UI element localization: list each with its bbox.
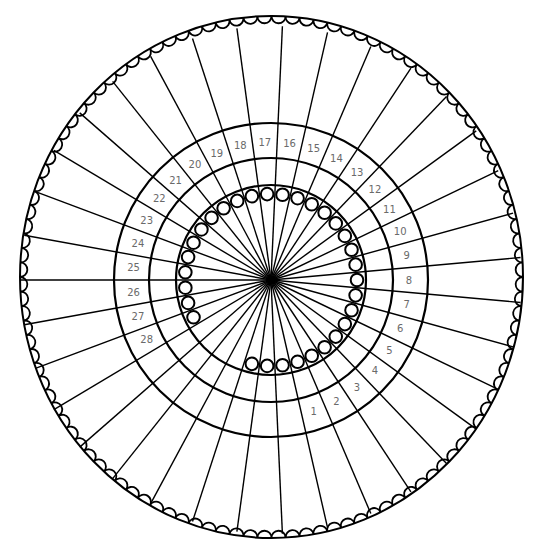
spoke-line <box>237 28 271 280</box>
spoke-line <box>271 280 282 534</box>
scallop <box>84 92 96 104</box>
segment-number: 6 <box>397 323 403 334</box>
scallop <box>115 64 128 75</box>
scallop <box>456 103 468 116</box>
bead-circle <box>261 188 274 201</box>
segment-number: 10 <box>394 226 407 237</box>
segment-number: 28 <box>140 334 153 345</box>
spoke-line <box>271 280 328 528</box>
scallop <box>437 459 449 471</box>
segment-number: 24 <box>132 238 145 249</box>
segment-number: 19 <box>210 148 223 159</box>
bead-circle <box>261 360 274 373</box>
bead-circle <box>246 358 259 371</box>
bead-circle <box>205 212 218 225</box>
bead-circle <box>305 198 318 211</box>
bead-circle <box>231 195 244 208</box>
scallop <box>94 459 106 471</box>
spoke-line <box>271 68 411 280</box>
bead-circle <box>305 349 318 362</box>
segment-number: 11 <box>383 204 396 215</box>
segment-number: 5 <box>386 345 392 356</box>
segment-number: 12 <box>369 184 382 195</box>
bead-circle <box>339 230 352 243</box>
scallop <box>456 438 468 451</box>
bead-circle <box>345 243 358 256</box>
segment-number: 15 <box>307 143 320 154</box>
segment-number: 7 <box>404 299 410 310</box>
scallop <box>427 469 439 481</box>
scallop <box>427 73 439 85</box>
bead-circle <box>351 274 364 287</box>
spoke-line <box>151 56 271 280</box>
spoke-line <box>271 131 476 280</box>
spoke-line <box>271 26 282 280</box>
segment-number: 16 <box>283 138 296 149</box>
segment-number: 14 <box>330 153 343 164</box>
bead-circle <box>217 202 230 215</box>
spoke-line <box>80 280 271 447</box>
spoke-line <box>237 280 271 532</box>
spoke-line <box>271 32 328 280</box>
segment-number: 9 <box>404 250 410 261</box>
spoke-line <box>151 280 271 504</box>
scallop <box>115 478 128 489</box>
bead-circle <box>349 289 362 302</box>
segment-number: 1 <box>310 406 316 417</box>
segment-number: 20 <box>189 159 202 170</box>
segment-number: 13 <box>351 167 364 178</box>
segment-number: 27 <box>132 311 145 322</box>
bead-circle <box>329 217 342 230</box>
scallop <box>94 82 106 94</box>
segment-number: 8 <box>406 275 412 286</box>
segment-number: 21 <box>169 175 182 186</box>
scallop <box>416 64 429 75</box>
bead-circle <box>345 304 358 317</box>
bead-circle <box>349 258 362 271</box>
bead-circle <box>182 251 195 264</box>
bead-circle <box>187 311 200 324</box>
segment-number: 22 <box>153 193 166 204</box>
spoke-line <box>271 280 498 389</box>
spoke-line <box>271 280 411 492</box>
scallop <box>75 438 87 451</box>
scallop <box>447 92 459 104</box>
bead-circle <box>195 223 208 236</box>
bead-circle <box>179 266 192 279</box>
bead-circle <box>329 330 342 343</box>
segment-number: 17 <box>258 137 271 148</box>
scalloped-radial-chart: 1234567891011121314151617181920212223242… <box>0 0 545 557</box>
segment-number: 4 <box>372 365 378 376</box>
spoke-line <box>271 280 521 302</box>
segment-number: 18 <box>234 140 247 151</box>
scallop <box>416 478 429 489</box>
segment-number: 26 <box>127 287 140 298</box>
bead-circle <box>179 281 192 294</box>
bead-circle <box>291 355 304 368</box>
scallop <box>447 449 459 461</box>
segment-number: 3 <box>354 382 360 393</box>
segment-number: 23 <box>140 215 153 226</box>
bead-circle <box>246 190 259 203</box>
bead-circle <box>182 297 195 310</box>
segment-number: 2 <box>333 396 339 407</box>
spoke-line <box>271 258 521 280</box>
bead-circle <box>276 188 289 201</box>
bead-circle <box>318 341 331 354</box>
spoke-line <box>271 280 476 429</box>
spoke-line <box>271 171 498 280</box>
bead-circle <box>339 318 352 331</box>
segment-number: 25 <box>127 262 140 273</box>
bead-circle <box>187 236 200 249</box>
bead-circle <box>291 192 304 205</box>
scallop <box>437 82 449 94</box>
bead-circle <box>318 206 331 219</box>
scallop <box>84 449 96 461</box>
bead-circle <box>276 359 289 372</box>
center-hub <box>267 276 275 284</box>
